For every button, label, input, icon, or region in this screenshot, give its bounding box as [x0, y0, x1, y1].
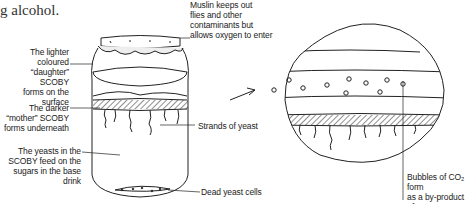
label-line: “daughter” SCOBY	[0, 67, 69, 87]
label-line: The lighter coloured	[0, 47, 69, 67]
label-line: allows oxygen to enter	[190, 30, 272, 40]
magnified-circle-icon	[270, 24, 450, 162]
label-strands-of-yeast: Strands of yeast	[198, 121, 258, 131]
label-line: as a by-product of	[407, 192, 469, 204]
label-mother-scoby: The darker “mother” SCOBY forms undernea…	[0, 103, 69, 133]
label-muslin: Muslin keeps out flies and other contami…	[190, 0, 272, 40]
label-line: “mother” SCOBY	[0, 113, 69, 123]
label-line: The darker	[0, 103, 69, 113]
label-co2-bubbles: Bubbles of CO₂ form as a by-product of f…	[407, 172, 469, 204]
label-line: Dead yeast cells	[201, 187, 262, 197]
label-line: forms underneath	[0, 123, 69, 133]
label-line: Bubbles of CO₂ form	[407, 172, 469, 192]
label-line: Strands of yeast	[198, 121, 258, 131]
label-line: Muslin keeps out	[190, 0, 272, 10]
label-line: SCOBY feed on the	[0, 156, 81, 166]
jar-icon	[92, 36, 189, 198]
label-line: flies and other	[190, 10, 272, 20]
label-yeasts-feed: The yeasts in the SCOBY feed on the suga…	[0, 146, 81, 186]
label-daughter-scoby: The lighter coloured “daughter” SCOBY fo…	[0, 47, 69, 107]
arrow-icon	[230, 88, 255, 100]
label-line: sugars in the base drink	[0, 166, 81, 186]
label-dead-yeast: Dead yeast cells	[201, 187, 262, 197]
label-line: The yeasts in the	[0, 146, 81, 156]
label-line: contaminants but	[190, 20, 272, 30]
